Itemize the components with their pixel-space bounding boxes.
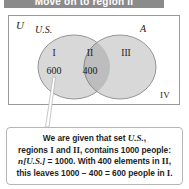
- caption-l3-numeral-ii: II: [162, 156, 169, 166]
- caption-l1-a: We are given that set: [43, 133, 128, 143]
- caption-l1-set: U.S.: [128, 133, 144, 143]
- caption-l3-set: [U.S.]: [23, 156, 45, 166]
- figure-root: Move on to region II U IV U.S. A I II II…: [0, 0, 189, 189]
- caption-line-4: this leaves 1000 − 400 = 600 people in I…: [11, 168, 178, 180]
- caption-l1-c: ,: [144, 133, 146, 143]
- caption-l3-c: = 1000. With 400 elements in: [45, 156, 161, 166]
- caption-l2-b: and: [54, 145, 73, 155]
- caption-line-2: regions I and II, contains 1000 people:: [11, 145, 178, 157]
- caption-l3-d: ,: [169, 156, 171, 166]
- caption-l2-numeral-ii: II: [73, 145, 80, 155]
- caption-line-1: We are given that set U.S.,: [11, 133, 178, 145]
- caption-l2-c: , contains 1000 people:: [80, 145, 171, 155]
- caption-l4-b: .: [170, 168, 172, 178]
- caption-box: We are given that set U.S., regions I an…: [6, 127, 183, 185]
- caption-l4-a: this leaves 1000 − 400 = 600 people in: [16, 168, 166, 178]
- caption-line-3: n[U.S.] = 1000. With 400 elements in II,: [11, 156, 178, 168]
- caption-l2-a: regions: [18, 145, 50, 155]
